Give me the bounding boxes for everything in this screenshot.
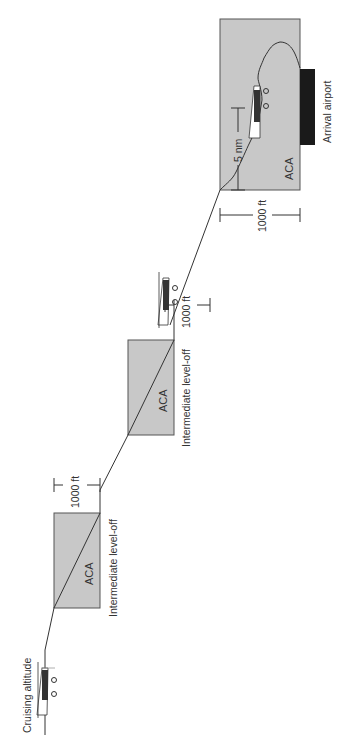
svg-text:1000 ft: 1000 ft bbox=[180, 296, 192, 328]
svg-text:1000 ft: 1000 ft bbox=[256, 200, 268, 232]
dimension-1000ft-3: 1000 ft bbox=[220, 200, 300, 232]
dimension-1000ft-2: 1000 ft bbox=[165, 296, 210, 328]
cruising-altitude-label: Cruising altitude bbox=[21, 658, 33, 733]
aca-label-2: ACA bbox=[157, 389, 169, 412]
aca-label-3: ACA bbox=[283, 157, 295, 180]
svg-text:1000 ft: 1000 ft bbox=[69, 476, 81, 508]
aca-box-2: ACA bbox=[128, 340, 174, 435]
svg-text:5 nm: 5 nm bbox=[232, 138, 244, 162]
dimension-1000ft-1: 1000 ft bbox=[54, 476, 100, 508]
aca-label-1: ACA bbox=[83, 562, 95, 585]
runway bbox=[300, 69, 315, 145]
descent-profile-diagram: ACA ACA ACA Arrival airport Cruisin bbox=[0, 0, 343, 739]
airplane-icon-cruise bbox=[37, 662, 57, 718]
airplane-icon-level-off bbox=[158, 272, 178, 328]
level-off-label-2: Intermediate level-off bbox=[180, 349, 192, 447]
arrival-airport-label: Arrival airport bbox=[321, 80, 333, 143]
level-off-label-1: Intermediate level-off bbox=[107, 519, 119, 617]
aca-box-1: ACA bbox=[54, 513, 100, 608]
flight-path bbox=[45, 190, 220, 735]
